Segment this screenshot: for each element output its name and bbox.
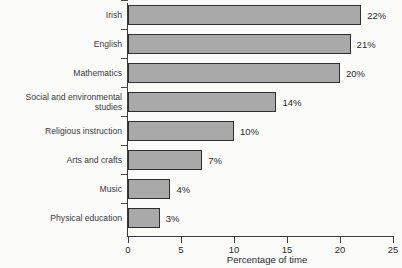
bar-value-label: 14% xyxy=(282,97,301,108)
bar xyxy=(128,63,340,83)
category-label: Mathematics xyxy=(0,68,122,79)
bar-row: 22% xyxy=(128,5,393,25)
bar-row: 21% xyxy=(128,34,393,54)
bar-value-label: 7% xyxy=(208,155,222,166)
y-axis-tick xyxy=(121,0,128,1)
bar-row: 14% xyxy=(128,92,393,112)
y-axis-tick xyxy=(121,116,128,117)
bar xyxy=(128,5,361,25)
y-axis-tick xyxy=(121,145,128,146)
category-label: English xyxy=(0,39,122,50)
bar xyxy=(128,208,160,228)
category-label: Music xyxy=(0,184,122,195)
bar-row: 3% xyxy=(128,208,393,228)
bar-chart: 22%21%20%14%10%7%4%3% IrishEnglishMathem… xyxy=(0,0,402,268)
bar-value-label: 20% xyxy=(346,68,365,79)
bar-value-label: 10% xyxy=(240,126,259,137)
bar-row: 10% xyxy=(128,121,393,141)
x-axis-tick xyxy=(393,237,394,243)
category-label: Physical education xyxy=(0,213,122,224)
y-axis-tick xyxy=(121,174,128,175)
x-axis-tick xyxy=(287,237,288,243)
bar-value-label: 3% xyxy=(166,213,180,224)
x-axis-title: Percentage of time xyxy=(0,254,402,265)
x-axis-line xyxy=(127,236,394,237)
bar-row: 4% xyxy=(128,179,393,199)
bar xyxy=(128,121,234,141)
bar-row: 7% xyxy=(128,150,393,170)
y-axis-tick xyxy=(121,29,128,30)
bar-value-label: 21% xyxy=(357,39,376,50)
category-label: Religious instruction xyxy=(0,126,122,137)
y-axis-tick xyxy=(121,87,128,88)
x-axis-tick xyxy=(234,237,235,243)
category-label: Arts and crafts xyxy=(0,155,122,166)
category-label: Irish xyxy=(0,10,122,21)
bar-value-label: 4% xyxy=(176,184,190,195)
x-axis-tick xyxy=(340,237,341,243)
bar-value-label: 22% xyxy=(367,10,386,21)
bar xyxy=(128,34,351,54)
y-axis-tick xyxy=(121,203,128,204)
x-axis-tick xyxy=(128,237,129,243)
bar xyxy=(128,150,202,170)
category-label: Social and environmental studies xyxy=(0,92,122,113)
bar xyxy=(128,92,276,112)
y-axis-tick xyxy=(121,58,128,59)
bar xyxy=(128,179,170,199)
bar-row: 20% xyxy=(128,63,393,83)
x-axis-tick xyxy=(181,237,182,243)
